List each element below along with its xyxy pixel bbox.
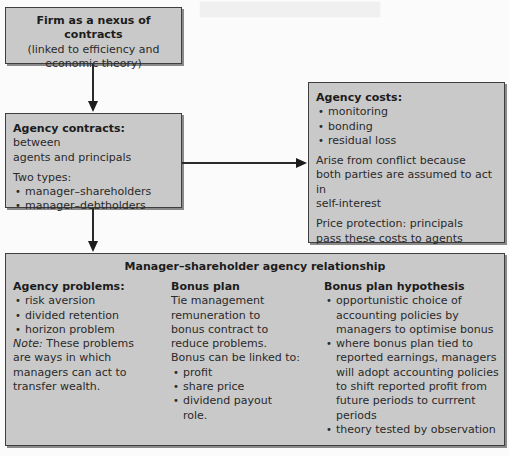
bonus-plan-line: Tie management xyxy=(171,294,306,308)
relationship-title: Manager–shareholder agency relationship xyxy=(13,260,497,274)
list-item-line: accounting policies by xyxy=(336,309,502,323)
bonus-plan-line: remuneration to xyxy=(171,309,306,323)
list-item-line: where bonus plan tied to xyxy=(336,337,502,351)
list-item-line: theory tested by observation xyxy=(336,423,502,437)
firm-box-subtitle-2: economic theory) xyxy=(10,57,177,71)
list-item-line: reported earnings, managers xyxy=(336,351,502,365)
list-item-line: managers to optimise bonus xyxy=(336,323,502,337)
costs-list: monitoring bonding residual loss xyxy=(316,105,497,148)
note-line: managers can act to xyxy=(13,366,163,380)
costs-para1-line: Arise from conflict because xyxy=(316,154,497,168)
bonus-plan-line: reduce problems. xyxy=(171,337,306,351)
bonus-hypothesis-list: opportunistic choice of accounting polic… xyxy=(324,294,502,437)
costs-para1-line: self-interest xyxy=(316,197,497,211)
connector-contracts-to-relationship xyxy=(92,208,94,242)
list-item-line: future periods to currrent xyxy=(336,394,502,408)
agency-problems-heading: Agency problems: xyxy=(13,280,163,294)
bonus-plan-line: bonus contract to xyxy=(171,323,306,337)
list-item: theory tested by observation xyxy=(324,423,502,437)
contracts-types-label: Two types: xyxy=(13,171,174,185)
manager-shareholder-relationship-box: Manager–shareholder agency relationship … xyxy=(5,253,505,446)
agency-problems-column: Agency problems: risk aversion divided r… xyxy=(13,280,163,394)
contracts-title: Agency contracts: xyxy=(13,122,125,135)
list-item: profit xyxy=(171,366,306,380)
list-item: dividend payoutrole. xyxy=(171,394,306,423)
bonus-hypothesis-column: Bonus plan hypothesis opportunistic choi… xyxy=(324,280,502,437)
note-label: Note: xyxy=(13,337,43,350)
list-item-line: will adopt accounting policies xyxy=(336,366,502,380)
agency-problems-list: risk aversion divided retention horizon … xyxy=(13,294,163,337)
list-item: manager–shareholders xyxy=(13,185,174,199)
agency-costs-box: Agency costs: monitoring bonding residua… xyxy=(308,82,505,243)
costs-title: Agency costs: xyxy=(316,91,497,105)
list-item: horizon problem xyxy=(13,323,163,337)
list-item: where bonus plan tied to reported earnin… xyxy=(324,337,502,423)
firm-box-subtitle-1: (linked to efficiency and xyxy=(10,43,177,57)
bonus-hypothesis-heading: Bonus plan hypothesis xyxy=(324,280,502,294)
list-item-text: dividend payout xyxy=(183,394,272,407)
list-item: manager–debtholders xyxy=(13,199,174,213)
list-item-tail: role. xyxy=(183,409,207,422)
arrow-down-icon xyxy=(88,101,98,112)
costs-para2: Price protection: principals pass these … xyxy=(316,217,497,246)
costs-para2-line: Price protection: principals xyxy=(316,217,497,231)
list-item: risk aversion xyxy=(13,294,163,308)
contracts-line2: agents and principals xyxy=(13,151,174,165)
bonus-plan-list: profit share price dividend payoutrole. xyxy=(171,366,306,423)
costs-para1: Arise from conflict because both parties… xyxy=(316,154,497,211)
firm-box-title: Firm as a nexus of contracts xyxy=(10,14,177,43)
agency-problems-note: Note: These problems are ways in which m… xyxy=(13,337,163,394)
note-line: transfer wealth. xyxy=(13,380,163,394)
list-item: residual loss xyxy=(316,134,497,148)
bonus-plan-column: Bonus plan Tie management remuneration t… xyxy=(171,280,306,423)
costs-para1-line: both parties are assumed to act in xyxy=(316,168,497,197)
connector-contracts-to-costs xyxy=(182,162,297,164)
note-line: are ways in which xyxy=(13,351,163,365)
list-item-line: to shift reported profit from xyxy=(336,380,502,394)
note-line: These problems xyxy=(43,337,134,350)
list-item: share price xyxy=(171,380,306,394)
list-item-line: opportunistic choice of xyxy=(336,294,502,308)
list-item: opportunistic choice of accounting polic… xyxy=(324,294,502,337)
bonus-plan-line: Bonus can be linked to: xyxy=(171,351,306,365)
list-item: divided retention xyxy=(13,309,163,323)
contracts-heading: Agency contracts: between xyxy=(13,122,174,151)
arrow-down-icon xyxy=(88,241,98,252)
contracts-title-rest: between xyxy=(13,136,61,149)
costs-para2-line: pass these costs to agents xyxy=(316,232,497,246)
bonus-plan-heading: Bonus plan xyxy=(171,280,306,294)
list-item: monitoring xyxy=(316,105,497,119)
arrow-right-icon xyxy=(296,158,307,168)
connector-firm-to-contracts xyxy=(92,64,94,102)
list-item-line: periods xyxy=(336,409,502,423)
list-item: bonding xyxy=(316,120,497,134)
contracts-types-list: manager–shareholders manager–debtholders xyxy=(13,185,174,214)
agency-contracts-box: Agency contracts: between agents and pri… xyxy=(5,113,182,208)
firm-nexus-box: Firm as a nexus of contracts (linked to … xyxy=(5,7,182,64)
bleed-through-texture: ██████████████████ xyxy=(200,2,380,18)
